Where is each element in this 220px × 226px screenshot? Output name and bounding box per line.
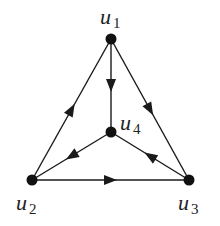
arrowhead-icon — [142, 101, 153, 115]
node-u1 — [106, 34, 117, 45]
arrowhead-icon — [66, 148, 80, 159]
label-u3: u3 — [178, 190, 199, 217]
directed-graph: u1u2u3u4 — [0, 0, 220, 226]
node-u3 — [184, 175, 195, 186]
node-u2 — [27, 175, 38, 186]
label-u1: u1 — [100, 4, 121, 31]
arrowhead-icon — [64, 104, 75, 118]
arrowhead-icon — [106, 79, 116, 92]
edges — [32, 39, 189, 185]
label-u4: u4 — [120, 110, 141, 137]
label-u2: u2 — [16, 190, 37, 217]
arrowhead-icon — [104, 175, 117, 185]
node-u4 — [106, 127, 117, 138]
arrowhead-icon — [144, 153, 158, 164]
